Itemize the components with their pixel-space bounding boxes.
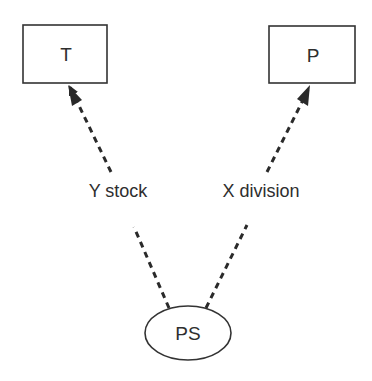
- node-p-label: P: [307, 45, 320, 66]
- node-t: T: [23, 25, 107, 83]
- node-ps: PS: [145, 306, 231, 360]
- arrowhead-t-icon: [68, 85, 82, 106]
- edge-ps-p-upper: [267, 90, 308, 172]
- edge-ps-to-t: Y stock: [68, 85, 169, 308]
- edge-ps-t-lower: [134, 227, 169, 308]
- node-t-label: T: [60, 44, 72, 65]
- edge-label-y-stock: Y stock: [89, 181, 149, 201]
- edge-ps-to-p: X division: [206, 85, 310, 308]
- diagram-canvas: T P PS Y stock X division: [0, 0, 372, 381]
- edge-ps-p-lower: [206, 225, 247, 308]
- node-ps-label: PS: [175, 323, 200, 344]
- node-p: P: [269, 26, 355, 83]
- edge-label-x-division: X division: [222, 181, 299, 201]
- arrowhead-p-icon: [297, 85, 310, 106]
